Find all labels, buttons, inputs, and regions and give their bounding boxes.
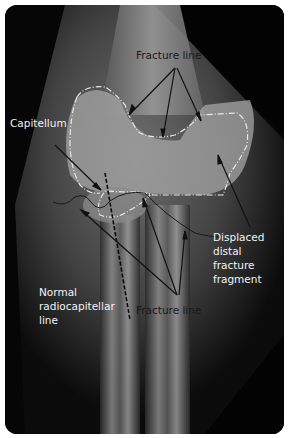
xray-frame: Fracture line Capitellum Displaced dista… (5, 5, 284, 434)
label-displaced-fragment: Displaced distal fracture fragment (213, 230, 264, 286)
label-fracture-line-top: Fracture line (136, 48, 201, 62)
label-radiocapitellar-line: Normal radiocapitellar line (39, 285, 115, 327)
elbow-xray-image (5, 5, 284, 434)
label-capitellum: Capitellum (10, 116, 67, 130)
label-fracture-line-bottom: Fracture line (136, 303, 201, 317)
